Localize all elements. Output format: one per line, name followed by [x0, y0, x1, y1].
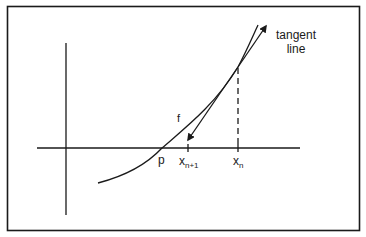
x-next-subscript: n+1: [185, 161, 199, 170]
x-n-label: xn: [233, 155, 243, 167]
x-next-label: xn+1: [179, 155, 199, 167]
function-label: f: [177, 113, 180, 124]
tangent-label-line1: tangent: [276, 29, 316, 41]
x-n-subscript: n: [239, 161, 243, 170]
tangent-label-line2: line: [276, 43, 316, 55]
tangent-line: [238, 26, 266, 67]
tangent-line-lower: [188, 67, 238, 140]
root-label: p: [158, 154, 165, 166]
tangent-line-label: tangent line: [276, 29, 316, 55]
